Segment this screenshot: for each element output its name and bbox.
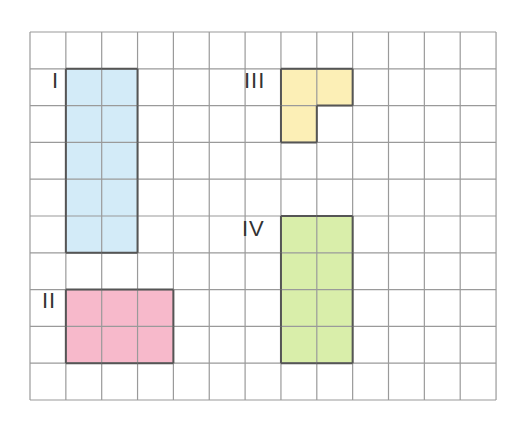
- shape-label-i: I: [52, 70, 59, 92]
- shape-label-iv: IV: [242, 218, 265, 240]
- shape-label-iii: III: [244, 70, 265, 92]
- shape-label-ii: II: [42, 290, 56, 312]
